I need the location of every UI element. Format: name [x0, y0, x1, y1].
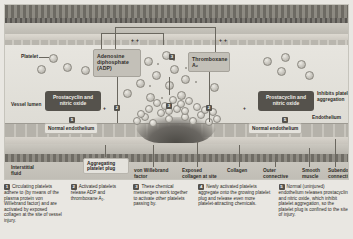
- connector-line: [115, 27, 215, 28]
- legend-step-3: 3These chemical messengers work together…: [133, 184, 192, 236]
- connector-line: [169, 77, 170, 95]
- adp-label-box: Adenosine diphosphate (ADP): [93, 49, 141, 77]
- step-text-5: Normal (uninjured) endothelium releases …: [279, 184, 348, 217]
- step-marker-2: 2: [114, 105, 120, 111]
- label-smooth-muscle: Smooth muscle: [302, 168, 326, 179]
- label-platelet: Platelet: [21, 54, 38, 60]
- aggregating-platelet-plug-cluster: [129, 93, 225, 129]
- label-normal-endothelium-right: Normal endothelium: [248, 123, 302, 134]
- platelet: [281, 53, 290, 62]
- platelet-leader-line: [39, 57, 49, 58]
- platelet: [63, 63, 72, 72]
- diagram-page: Adenosine diphosphate (ADP) Thromboxane …: [0, 0, 353, 239]
- label-inhibits-platelet-aggregation: Inhibits platelet aggregation: [317, 91, 349, 102]
- label-aggregating-platelet-plug: Aggregating platelet plug: [83, 158, 129, 174]
- connector-line: [117, 77, 118, 123]
- prostacyclin-box-right: Prostacyclin and nitric oxide: [258, 91, 314, 111]
- thromboxane-label-box: Thromboxane A₂: [188, 52, 230, 72]
- platelet: [123, 89, 132, 98]
- platelet: [152, 71, 161, 80]
- connector-line: [101, 33, 102, 49]
- platelet: [49, 54, 58, 63]
- platelet: [181, 75, 190, 84]
- plus-sign: +: [219, 37, 222, 43]
- label-collagen: Collagen: [227, 168, 259, 174]
- label-von-willebrand-factor: von Willebrand factor: [134, 168, 174, 179]
- label-normal-endothelium-left: Normal endothelium: [44, 123, 98, 134]
- legend-step-2: 2Activated platelets release ADP and thr…: [71, 184, 128, 236]
- step-marker-2b: 2: [206, 105, 212, 111]
- label-vessel-lumen: Vessel lumen: [11, 102, 41, 108]
- plus-sign: +: [224, 37, 227, 43]
- plus-sign: +: [136, 37, 139, 43]
- platelet: [263, 57, 272, 66]
- step-marker-3: 3: [166, 103, 172, 109]
- connector-line: [209, 72, 210, 122]
- connector-line: [215, 27, 216, 52]
- prostacyclin-box-left: Prostacyclin and nitric oxide: [45, 91, 101, 111]
- figure-panel: Adenosine diphosphate (ADP) Thromboxane …: [4, 4, 349, 180]
- outer-connective-tissue-top: [5, 5, 348, 19]
- label-interstitial-fluid: Interstitial fluid: [11, 165, 41, 176]
- legend-step-1: 1Circulating platelets adhere to (by mea…: [4, 184, 65, 236]
- platelet: [297, 60, 306, 69]
- platelet: [170, 65, 179, 74]
- platelet: [81, 66, 90, 75]
- plus-sign: +: [131, 37, 134, 43]
- label-exposed-collagen: Exposed collagen at site of vessel injur…: [182, 168, 222, 180]
- legend-step-5: 5Normal (uninjured) endothelium releases…: [279, 184, 349, 236]
- step-text-4: Newly activated platelets aggregate onto…: [198, 184, 270, 206]
- platelet: [177, 91, 186, 100]
- connector-line: [101, 33, 163, 34]
- connector-line: [163, 33, 164, 45]
- plus-sign: +: [103, 105, 106, 111]
- legend-step-4: 4Newly activated platelets aggregate ont…: [198, 184, 272, 236]
- label-endothelium: Endothelium: [312, 115, 341, 121]
- label-outer-connective-tissue: Outer connective tissue layer: [263, 168, 299, 180]
- platelet: [136, 79, 145, 88]
- step-text-2: Activated platelets release ADP and thro…: [71, 184, 116, 201]
- step-legend: 1Circulating platelets adhere to (by mea…: [4, 184, 349, 236]
- platelet: [146, 93, 155, 102]
- connector-line: [115, 27, 116, 49]
- platelet: [210, 83, 219, 92]
- outer-connective-tissue-bottom: [5, 154, 348, 162]
- platelet: [144, 57, 153, 66]
- label-subendothelial-connective-tissue: Subendothelial connective tissue: [328, 168, 349, 180]
- platelet: [277, 67, 286, 76]
- platelet: [305, 71, 314, 80]
- step-marker-3b: 3: [169, 54, 175, 60]
- step-text-1: Circulating platelets adhere to (by mean…: [4, 184, 62, 223]
- platelet: [37, 65, 46, 74]
- plus-sign: +: [243, 105, 246, 111]
- step-text-3: These chemical messengers work together …: [133, 184, 187, 206]
